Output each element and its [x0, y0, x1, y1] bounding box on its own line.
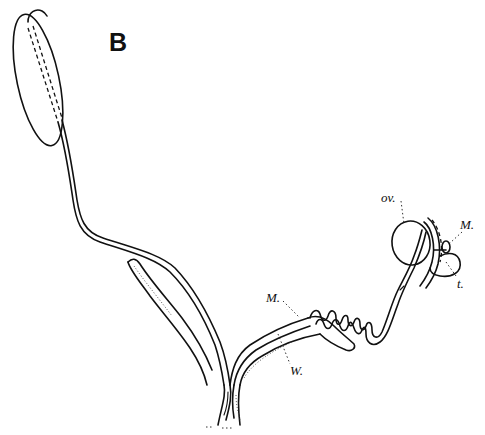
- panel-label: B: [109, 30, 127, 55]
- anatomical-drawing: [0, 0, 485, 435]
- left-duct: [58, 120, 230, 385]
- figure-canvas: B ov. M. t. M. W.: [0, 0, 485, 435]
- left-gonad: [4, 10, 73, 150]
- coiled-duct: [310, 230, 426, 344]
- common-trunk: [206, 385, 240, 428]
- right-gonad: [389, 218, 460, 288]
- label-mesovarium: M.: [460, 218, 474, 231]
- label-wolffian-duct: W.: [290, 364, 303, 377]
- label-tube: t.: [457, 277, 464, 290]
- label-mesentery: M.: [266, 291, 280, 304]
- label-ovary: ov.: [381, 191, 396, 204]
